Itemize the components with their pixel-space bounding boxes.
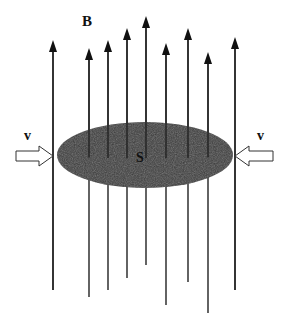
velocity-label-left: v — [24, 128, 31, 144]
velocity-arrow-left-icon — [235, 146, 273, 166]
arrowhead-up-icon — [142, 16, 150, 28]
arrowhead-up-icon — [162, 43, 170, 55]
velocity-label-right: v — [257, 128, 264, 144]
arrowhead-up-icon — [123, 28, 131, 40]
arrowhead-up-icon — [184, 28, 192, 40]
arrowhead-up-icon — [231, 37, 239, 49]
arrowhead-up-icon — [49, 40, 57, 52]
field-label-B: B — [82, 13, 92, 30]
velocity-arrow-right-icon — [16, 146, 53, 166]
arrowhead-up-icon — [104, 40, 112, 52]
surface-ellipse — [57, 122, 233, 188]
surface-label-S: S — [136, 150, 144, 166]
arrowhead-up-icon — [85, 48, 93, 60]
arrowhead-up-icon — [204, 52, 212, 64]
